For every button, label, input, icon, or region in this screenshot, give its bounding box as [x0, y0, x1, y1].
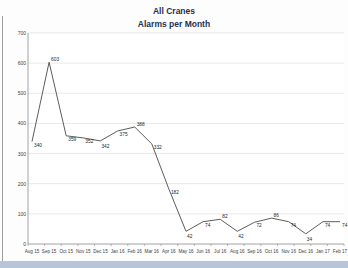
data-point-label: 42	[238, 234, 244, 239]
data-point-label: 72	[256, 223, 262, 228]
x-tick-label: Nov 15	[76, 249, 91, 254]
chart-title: All Cranes	[153, 6, 195, 16]
data-point-label: 352	[85, 139, 93, 144]
x-tick-label: Jan 16	[111, 249, 125, 254]
data-point-label: 332	[154, 145, 162, 150]
x-tick-label: Jul 16	[214, 249, 227, 254]
x-tick-label: Jun 16	[196, 249, 210, 254]
data-point-label: 42	[187, 234, 193, 239]
y-tick-label: 300	[18, 151, 27, 157]
x-tick-label: Apr 16	[162, 249, 176, 254]
data-point-label: 74	[291, 223, 297, 228]
x-tick-label: Sep 15	[42, 249, 57, 254]
data-point-label: 182	[171, 190, 179, 195]
window-bottom-strip	[0, 261, 348, 268]
data-point-label: 375	[120, 132, 128, 137]
plot-area: 0100200300400500600700Aug 15Sep 15Oct 15…	[18, 30, 348, 254]
data-point-label: 74	[325, 223, 331, 228]
data-point-label: 82	[222, 214, 228, 219]
x-tick-label: Jan 17	[316, 249, 330, 254]
data-point-label: 74	[342, 223, 348, 228]
data-point-label: 359	[68, 137, 76, 142]
x-tick-label: Nov 16	[281, 249, 296, 254]
y-tick-label: 700	[18, 30, 27, 36]
data-point-label: 388	[137, 122, 145, 127]
data-point-label: 340	[34, 143, 42, 148]
alarms-line-chart: All Cranes Alarms per Month 010020030040…	[0, 0, 348, 268]
y-tick-label: 500	[18, 90, 27, 96]
y-tick-label: 200	[18, 181, 27, 187]
data-point-label: 603	[51, 57, 59, 62]
x-tick-label: Dec 16	[298, 249, 313, 254]
x-tick-label: Feb 17	[333, 249, 348, 254]
x-tick-label: Dec 15	[93, 249, 108, 254]
y-tick-label: 600	[18, 60, 27, 66]
data-point-label: 34	[307, 237, 313, 242]
x-tick-label: Sep 16	[247, 249, 262, 254]
data-point-label: 74	[205, 223, 211, 228]
chart-screenshot: All Cranes Alarms per Month 010020030040…	[0, 0, 348, 268]
chart-subtitle: Alarms per Month	[138, 19, 210, 29]
x-tick-label: May 16	[178, 249, 194, 254]
data-point-label: 342	[101, 144, 109, 149]
x-tick-label: Mar 16	[145, 249, 160, 254]
x-tick-label: Aug 15	[25, 249, 40, 254]
x-tick-label: Oct 16	[265, 249, 279, 254]
data-point-label: 86	[274, 213, 280, 218]
x-tick-label: Aug 16	[230, 249, 245, 254]
x-tick-label: Oct 15	[59, 249, 73, 254]
x-tick-label: Feb 16	[128, 249, 143, 254]
y-tick-label: 0	[23, 241, 26, 247]
window-left-border	[2, 16, 3, 262]
y-tick-label: 100	[18, 211, 27, 217]
y-tick-label: 400	[18, 120, 27, 126]
